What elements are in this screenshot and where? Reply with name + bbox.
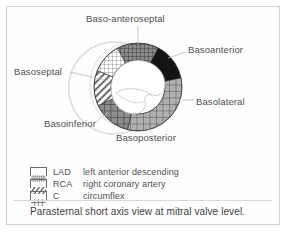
figure-caption: Parasternal short axis view at mitral va… <box>30 206 245 217</box>
swatch-coarse-grid-icon <box>30 191 47 200</box>
legend-row-lad: LAD left anterior descending <box>30 166 260 177</box>
legend-abbr-lad: LAD <box>53 167 83 177</box>
swatch-fine-crosshatch-icon <box>30 167 47 176</box>
label-basoanterior: Basoanterior <box>188 44 243 55</box>
legend-abbr-circumflex: C <box>53 191 83 201</box>
swatch-diagonal-stripes-icon <box>30 179 47 188</box>
legend-desc-lad: left anterior descending <box>83 167 179 177</box>
label-basoseptal: Basoseptal <box>14 66 62 77</box>
legend-abbr-rca: RCA <box>53 179 83 189</box>
label-basolateral: Basolateral <box>196 96 245 107</box>
label-baso-anteroseptal: Baso-anteroseptal <box>86 13 165 24</box>
legend-desc-rca: right coronary artery <box>83 179 166 189</box>
legend-divider <box>14 200 272 201</box>
label-basoposterior: Basoposterior <box>116 132 176 143</box>
legend: LAD left anterior descending RCA right c… <box>30 166 260 202</box>
legend-row-rca: RCA right coronary artery <box>30 178 260 189</box>
label-basoinferior: Basoinferior <box>44 118 96 129</box>
legend-desc-circumflex: circumflex <box>83 191 125 201</box>
